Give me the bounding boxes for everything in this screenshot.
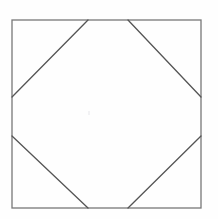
geometric-figure-svg (0, 0, 218, 219)
canvas-background (0, 0, 218, 219)
figure-canvas (0, 0, 218, 219)
